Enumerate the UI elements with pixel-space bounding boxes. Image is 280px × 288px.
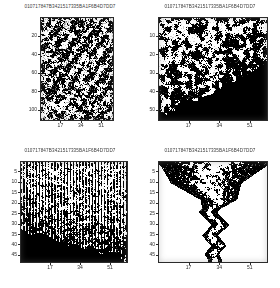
- y-tick-mark: [156, 224, 159, 225]
- x-tick-label: 34: [72, 264, 88, 271]
- x-tick-label: 51: [242, 122, 258, 129]
- y-tick-mark: [156, 182, 159, 183]
- y-tick-label: 45: [3, 251, 17, 258]
- x-tick-label: 51: [242, 264, 258, 271]
- y-tick-label: 25: [141, 209, 155, 216]
- y-tick-mark: [18, 182, 21, 183]
- x-tick-mark: [101, 120, 102, 123]
- y-tick-mark: [18, 234, 21, 235]
- y-tick-label: 30: [3, 220, 17, 227]
- y-tick-label: 50: [141, 106, 155, 113]
- y-tick-label: 30: [141, 69, 155, 76]
- x-tick-label: 34: [73, 122, 89, 129]
- y-tick-label: 5: [3, 168, 17, 175]
- y-tick-mark: [156, 234, 159, 235]
- x-tick-label: 34: [211, 122, 227, 129]
- y-tick-mark: [156, 203, 159, 204]
- y-tick-mark: [38, 36, 41, 37]
- y-tick-label: 40: [141, 241, 155, 248]
- plot-area-bottom-left: [20, 161, 128, 263]
- y-tick-mark: [156, 36, 159, 37]
- x-tick-mark: [219, 262, 220, 265]
- y-tick-mark: [38, 54, 41, 55]
- y-tick-mark: [156, 255, 159, 256]
- panel-bottom-right: 010717847B3421517335BA1F6B4D7DD7 5101520…: [140, 144, 280, 288]
- plot-canvas: [21, 162, 127, 262]
- y-tick-label: 30: [141, 220, 155, 227]
- plot-canvas: [41, 18, 113, 120]
- x-tick-label: 17: [181, 264, 197, 271]
- plot-area-top-left: [40, 17, 114, 121]
- x-tick-mark: [189, 120, 190, 123]
- y-tick-label: 100: [23, 106, 37, 113]
- x-tick-mark: [80, 262, 81, 265]
- y-tick-label: 60: [23, 69, 37, 76]
- y-tick-mark: [156, 171, 159, 172]
- y-tick-label: 40: [141, 87, 155, 94]
- y-tick-label: 40: [23, 50, 37, 57]
- y-tick-label: 10: [141, 32, 155, 39]
- y-tick-label: 45: [141, 251, 155, 258]
- x-tick-mark: [250, 120, 251, 123]
- x-tick-label: 17: [52, 122, 68, 129]
- y-tick-label: 20: [23, 32, 37, 39]
- y-tick-mark: [156, 213, 159, 214]
- y-tick-label: 15: [141, 189, 155, 196]
- y-tick-mark: [156, 192, 159, 193]
- y-tick-label: 25: [3, 209, 17, 216]
- y-tick-label: 20: [141, 50, 155, 57]
- x-tick-mark: [110, 262, 111, 265]
- panel-top-right: 010717847B3421517335BA1F6B4D7DD7 1020304…: [140, 0, 280, 144]
- panel-top-left: 010717847B3421517335BA1F6B4D7DD7 2040608…: [0, 0, 140, 144]
- x-tick-mark: [219, 120, 220, 123]
- x-tick-mark: [250, 262, 251, 265]
- plot-canvas: [159, 18, 267, 120]
- y-tick-mark: [18, 213, 21, 214]
- y-tick-label: 20: [3, 199, 17, 206]
- panel-title: 010717847B3421517335BA1F6B4D7DD7: [140, 4, 280, 10]
- y-tick-label: 80: [23, 87, 37, 94]
- x-tick-mark: [81, 120, 82, 123]
- x-tick-mark: [50, 262, 51, 265]
- y-tick-mark: [156, 244, 159, 245]
- x-tick-label: 17: [181, 122, 197, 129]
- y-tick-mark: [18, 203, 21, 204]
- panel-title: 010717847B3421517335BA1F6B4D7DD7: [0, 4, 140, 10]
- y-tick-label: 35: [3, 230, 17, 237]
- y-tick-mark: [38, 73, 41, 74]
- x-tick-label: 34: [211, 264, 227, 271]
- y-tick-mark: [38, 91, 41, 92]
- y-tick-label: 35: [141, 230, 155, 237]
- x-tick-label: 17: [42, 264, 58, 271]
- x-tick-label: 51: [93, 122, 109, 129]
- y-tick-mark: [18, 224, 21, 225]
- y-tick-mark: [18, 255, 21, 256]
- x-tick-mark: [189, 262, 190, 265]
- figure-grid: 010717847B3421517335BA1F6B4D7DD7 2040608…: [0, 0, 280, 288]
- y-tick-mark: [18, 192, 21, 193]
- y-tick-label: 20: [141, 199, 155, 206]
- panel-title: 010717847B3421517335BA1F6B4D7DD7: [0, 148, 140, 154]
- x-tick-label: 51: [102, 264, 118, 271]
- panel-title: 010717847B3421517335BA1F6B4D7DD7: [140, 148, 280, 154]
- plot-area-top-right: [158, 17, 268, 121]
- y-tick-label: 5: [141, 168, 155, 175]
- y-tick-mark: [156, 91, 159, 92]
- y-tick-mark: [38, 110, 41, 111]
- y-tick-label: 10: [141, 178, 155, 185]
- plot-area-bottom-right: [158, 161, 268, 263]
- y-tick-mark: [18, 244, 21, 245]
- x-tick-mark: [60, 120, 61, 123]
- y-tick-label: 15: [3, 189, 17, 196]
- plot-canvas: [159, 162, 267, 262]
- y-tick-mark: [156, 110, 159, 111]
- y-tick-mark: [156, 73, 159, 74]
- panel-bottom-left: 010717847B3421517335BA1F6B4D7DD7 5101520…: [0, 144, 140, 288]
- y-tick-mark: [156, 54, 159, 55]
- y-tick-label: 10: [3, 178, 17, 185]
- y-tick-label: 40: [3, 241, 17, 248]
- y-tick-mark: [18, 171, 21, 172]
